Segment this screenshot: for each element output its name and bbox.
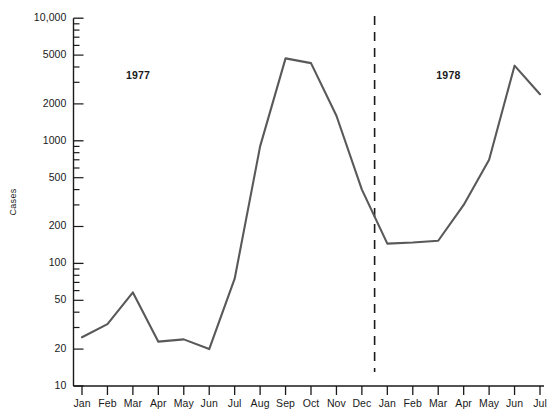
y-tick-label: 200: [0, 219, 67, 231]
y-tick-label: 500: [0, 171, 67, 183]
y-tick-label: 5000: [0, 48, 67, 60]
y-tick-label: 1000: [0, 134, 67, 146]
x-tick-label: Jul: [520, 397, 548, 409]
y-tick-label: 100: [0, 256, 67, 268]
year-annotation: 1978: [423, 69, 473, 81]
line-chart: Cases 10,000500020001000500200100502010 …: [0, 0, 548, 411]
year-annotation: 1977: [113, 69, 163, 81]
data-series-group: [82, 58, 540, 349]
y-tick-label: 10: [0, 379, 67, 391]
y-tick-label: 10,000: [0, 11, 67, 23]
y-tick-label: 50: [0, 293, 67, 305]
data-line: [82, 58, 540, 349]
plot-area: [0, 0, 548, 411]
y-tick-label: 2000: [0, 97, 67, 109]
y-tick-label: 20: [0, 342, 67, 354]
